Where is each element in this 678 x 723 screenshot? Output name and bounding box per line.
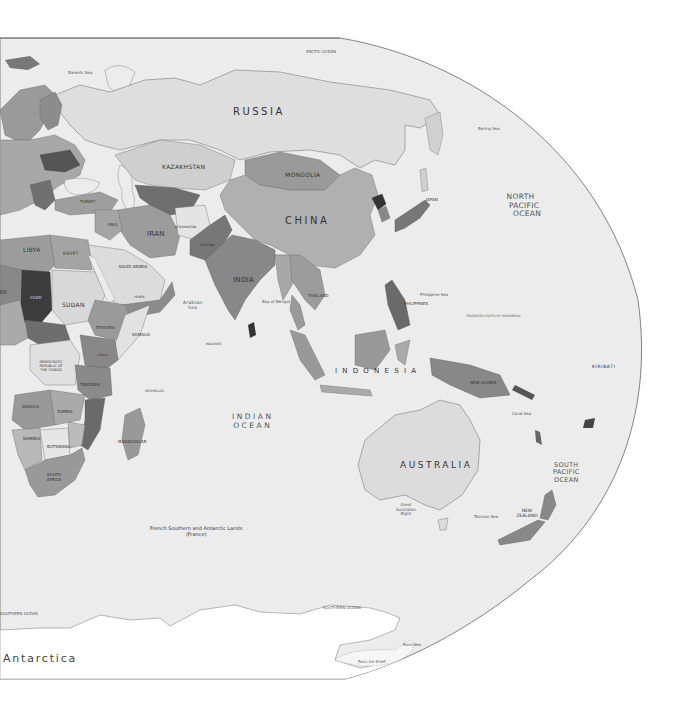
label-southern-ocean-west: SOUTHERN OCEAN [0,612,38,617]
angola [12,390,55,430]
label-bering-sea: Bering Sea [478,127,500,132]
label-somalia: SOMALIA [132,333,150,338]
label-new-zealand: NEW ZEALAND [515,508,539,518]
label-north-pacific: NORTH PACIFIC OCEAN [500,193,541,219]
label-chad: CHAD [30,296,42,301]
label-turkey: TURKEY [80,200,96,205]
label-niger-partial: ER [0,290,7,296]
world-map: RUSSIA CHINA AUSTRALIA I N D O N E S I A… [0,0,678,723]
label-maldives: MALDIVES [206,343,221,346]
label-arabian-sea: Arabian Sea [183,300,203,310]
label-zambia: ZAMBIA [57,410,73,415]
label-philippines: PHILIPPINES [404,302,428,307]
label-ethiopia: ETHIOPIA [96,326,115,331]
map-canvas [0,0,678,723]
label-iran: IRAN [147,230,165,238]
label-ross-sea: Ross Sea [403,643,421,648]
label-seychelles: SEYCHELLES [145,390,164,393]
label-micronesia: FEDERATED STATES OF MICRONESIA [466,315,521,318]
label-mongolia: MONGOLIA [285,172,320,179]
niger [0,265,22,305]
label-south-pacific: SOUTH PACIFIC OCEAN [553,462,580,484]
label-philippine-sea: Philippine Sea [420,293,448,298]
label-barents-sea: Barents Sea [68,71,92,76]
label-new-guinea: NEW GUINEA [470,381,496,386]
label-southern-ocean-east: SOUTHERN OCEAN [323,606,361,611]
label-iraq: IRAQ [108,223,118,228]
label-indian-ocean: INDIAN OCEAN [232,413,274,430]
label-coral-sea: Coral Sea [512,412,531,417]
label-tanzania: TANZANIA [80,383,100,388]
label-south-africa: SOUTH AFRICA [43,473,65,482]
label-libya: LIBYA [23,247,41,254]
label-indonesia: I N D O N E S I A [335,367,417,375]
south-pacific-line3: OCEAN [553,477,580,484]
label-antarctica: Antarctica [3,653,77,666]
label-yemen: YEMEN [134,296,144,299]
label-china: CHINA [285,215,329,227]
label-madagascar: MADAGASCAR [118,440,147,445]
label-japan: JAPAN [426,198,438,203]
label-australia: AUSTRALIA [400,460,472,470]
label-russia: RUSSIA [233,106,285,118]
label-kazakhstan: KAZAKHSTAN [162,164,205,171]
label-arctic-ocean: ARCTIC OCEAN [306,50,336,55]
french-southern-line2: (France) [150,532,242,538]
label-india: INDIA [233,276,254,284]
label-bay-of-bengal: Bay of Bengal [262,300,290,305]
label-pakistan: PAKISTAN [200,244,214,247]
label-great-australian-bight: Great Australian Bight [393,503,419,517]
label-namibia: NAMIBIA [23,437,40,442]
label-dr-congo: DEMOCRATIC REPUBLIC OF THE CONGO [36,360,66,372]
zambia [50,390,85,425]
label-kiribati: KIRIBATI [592,364,615,369]
label-angola: ANGOLA [22,405,39,410]
label-sudan: SUDAN [62,302,85,309]
arabian-sea-line2: Sea [183,305,203,310]
north-pacific-line3: OCEAN [500,210,541,219]
label-ross-ice-shelf: Ross Ice Shelf [358,660,386,665]
label-egypt: EGYPT [63,251,79,256]
indian-ocean-line2: OCEAN [232,422,274,431]
label-afghanistan: AFGHANISTAN [175,226,196,229]
label-thailand: THAILAND [308,294,329,299]
label-botswana: BOTSWANA [47,445,70,450]
tasmania [438,518,448,530]
label-tasman-sea: Tasman Sea [474,515,498,520]
label-saudi-arabia: SAUDI ARABIA [118,265,148,270]
label-kenya: KENYA [98,354,108,357]
label-french-southern-lands: French Southern and Antarctic Lands (Fra… [150,526,242,538]
